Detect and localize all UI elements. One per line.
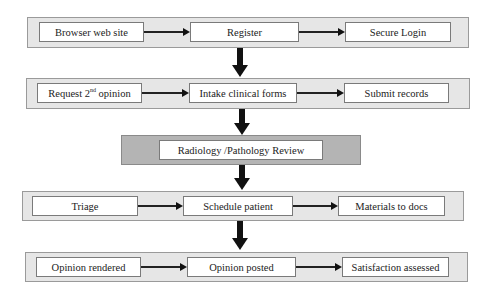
node-label: Browser web site bbox=[55, 27, 128, 38]
node-intake-clinical-forms: Intake clinical forms bbox=[189, 83, 297, 103]
node-triage: Triage bbox=[32, 196, 138, 216]
node-request-second-opinion: Request 2nd opinion bbox=[37, 83, 142, 103]
node-submit-records: Submit records bbox=[344, 83, 449, 103]
node-label: Submit records bbox=[365, 88, 429, 99]
node-label: Materials to docs bbox=[355, 201, 427, 212]
node-radiology-pathology-review: Radiology /Pathology Review bbox=[159, 140, 323, 160]
node-label: Opinion rendered bbox=[52, 262, 126, 273]
arrow-right-icon bbox=[296, 263, 342, 271]
node-schedule-patient: Schedule patient bbox=[183, 196, 293, 216]
arrow-right-icon bbox=[142, 89, 189, 97]
node-label: Register bbox=[227, 27, 262, 38]
arrow-down-icon bbox=[234, 165, 250, 191]
node-label: Schedule patient bbox=[203, 201, 273, 212]
arrow-right-icon bbox=[141, 263, 187, 271]
arrow-right-icon bbox=[299, 28, 345, 36]
node-opinion-posted: Opinion posted bbox=[187, 257, 296, 277]
arrow-down-icon bbox=[232, 221, 248, 252]
arrow-down-icon bbox=[232, 48, 248, 78]
arrow-right-icon bbox=[138, 202, 183, 210]
arrow-right-icon bbox=[293, 202, 338, 210]
node-materials-to-docs: Materials to docs bbox=[338, 196, 445, 216]
node-label: Satisfaction assessed bbox=[352, 262, 440, 273]
node-label: Intake clinical forms bbox=[200, 88, 287, 99]
node-browser-web-site: Browser web site bbox=[39, 22, 144, 42]
arrow-down-icon bbox=[234, 109, 250, 136]
node-label: Radiology /Pathology Review bbox=[178, 145, 305, 156]
node-secure-login: Secure Login bbox=[345, 22, 451, 42]
node-opinion-rendered: Opinion rendered bbox=[36, 257, 141, 277]
arrow-right-icon bbox=[144, 28, 190, 36]
node-label: Secure Login bbox=[370, 27, 426, 38]
node-label: Opinion posted bbox=[209, 262, 273, 273]
node-label: Triage bbox=[71, 201, 98, 212]
node-register: Register bbox=[190, 22, 299, 42]
node-label: Request 2nd opinion bbox=[48, 87, 130, 99]
arrow-right-icon bbox=[297, 89, 344, 97]
node-satisfaction-assessed: Satisfaction assessed bbox=[342, 257, 449, 277]
